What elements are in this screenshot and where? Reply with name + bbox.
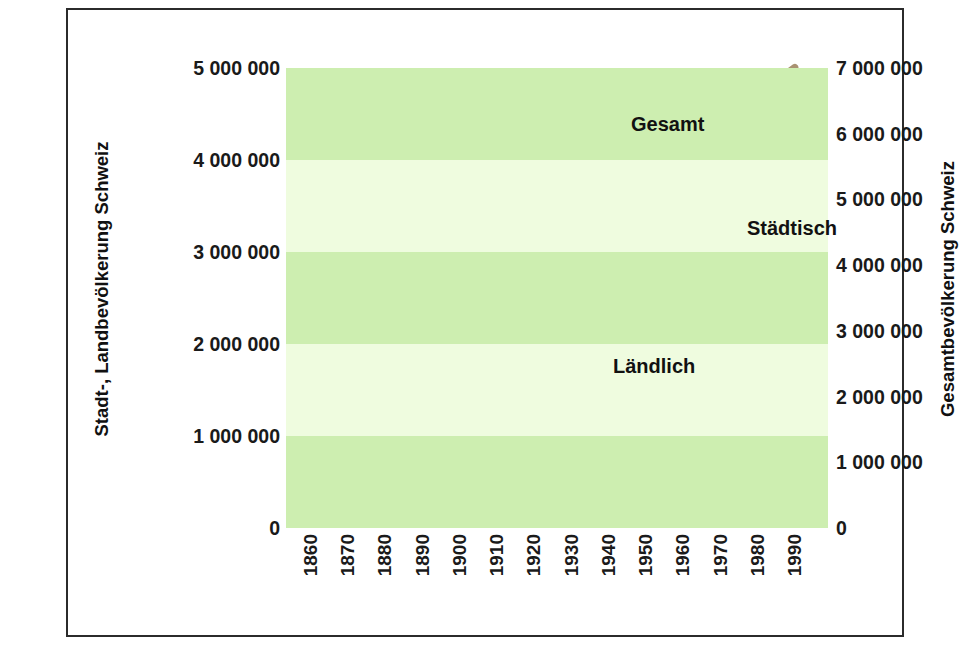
y-axis-right-tick-label: 5 000 000 xyxy=(836,188,923,211)
chart-frame: Stadt-, Landbevölkerung Schweiz Gesamtbe… xyxy=(66,8,904,637)
y-axis-left-tick-label: 2 000 000 xyxy=(193,333,280,356)
y-axis-left-tick-label: 0 xyxy=(269,517,280,540)
x-axis-tick-label: 1960 xyxy=(672,534,694,576)
plot-area: GesamtStädtischLändlich xyxy=(286,68,828,528)
x-axis-tick-label: 1940 xyxy=(598,534,620,576)
x-axis-tick-label: 1980 xyxy=(747,534,769,576)
y-axis-right-ticks: 7 000 0006 000 0005 000 0004 000 0003 00… xyxy=(836,68,956,528)
background-band xyxy=(286,68,828,160)
y-axis-left-title: Stadt-, Landbevölkerung Schweiz xyxy=(91,109,113,469)
y-axis-right-tick-label: 7 000 000 xyxy=(836,57,923,80)
series-label-städtisch: Städtisch xyxy=(747,217,837,240)
x-axis-tick-label: 1900 xyxy=(449,534,471,576)
series-label-ländlich: Ländlich xyxy=(613,355,695,378)
x-axis-tick-label: 1990 xyxy=(784,534,806,576)
x-axis-tick-label: 1920 xyxy=(523,534,545,576)
y-axis-right-tick-label: 0 xyxy=(836,517,847,540)
x-axis-ticks: 1860187018801890190019101920193019401950… xyxy=(286,534,828,630)
y-axis-right-tick-label: 4 000 000 xyxy=(836,254,923,277)
series-label-gesamt: Gesamt xyxy=(631,113,704,136)
x-axis-tick-label: 1970 xyxy=(710,534,732,576)
x-axis-tick-label: 1880 xyxy=(374,534,396,576)
x-axis-tick-label: 1860 xyxy=(300,534,322,576)
x-axis-tick-label: 1890 xyxy=(412,534,434,576)
y-axis-left-tick-label: 3 000 000 xyxy=(193,241,280,264)
y-axis-right-tick-label: 2 000 000 xyxy=(836,385,923,408)
background-band xyxy=(286,344,828,436)
x-axis-tick-label: 1930 xyxy=(561,534,583,576)
x-axis-tick-label: 1910 xyxy=(486,534,508,576)
y-axis-left-tick-label: 4 000 000 xyxy=(193,149,280,172)
background-band xyxy=(286,252,828,344)
y-axis-right-tick-label: 3 000 000 xyxy=(836,319,923,342)
y-axis-right-tick-label: 1 000 000 xyxy=(836,451,923,474)
x-axis-tick-label: 1950 xyxy=(635,534,657,576)
y-axis-left-tick-label: 5 000 000 xyxy=(193,57,280,80)
y-axis-left-tick-label: 1 000 000 xyxy=(193,425,280,448)
y-axis-left-ticks: 5 000 0004 000 0003 000 0002 000 0001 00… xyxy=(176,68,280,528)
x-axis-tick-label: 1870 xyxy=(337,534,359,576)
y-axis-right-tick-label: 6 000 000 xyxy=(836,122,923,145)
background-band xyxy=(286,436,828,528)
